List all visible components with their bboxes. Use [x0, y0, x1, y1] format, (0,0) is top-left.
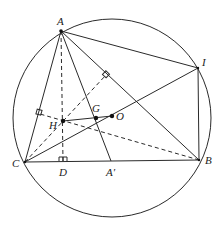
label-A: A [56, 15, 64, 27]
segment-AC [25, 31, 61, 162]
euler-line-diagram: A I B C D A′ H G O [0, 0, 222, 230]
label-A-prime: A′ [105, 166, 116, 178]
label-I: I [201, 56, 207, 68]
label-G: G [92, 102, 100, 114]
right-angle-mark-foot-AB [102, 71, 109, 78]
point-A [59, 29, 63, 33]
segment-AI [61, 31, 198, 68]
point-I [197, 67, 199, 69]
label-B: B [205, 154, 212, 166]
point-G [94, 116, 98, 120]
point-C [24, 161, 26, 163]
segment-AB [61, 31, 199, 160]
label-D: D [58, 166, 67, 178]
point-O [110, 114, 114, 118]
segment-IB [198, 68, 199, 160]
label-O: O [116, 110, 124, 122]
point-B [198, 159, 200, 161]
right-angle-mark-D [59, 157, 67, 161]
segment-CB [25, 160, 199, 162]
label-H: H [48, 119, 58, 131]
segment-AA-prime [61, 31, 111, 161]
point-H [61, 119, 65, 123]
label-C: C [12, 157, 20, 169]
